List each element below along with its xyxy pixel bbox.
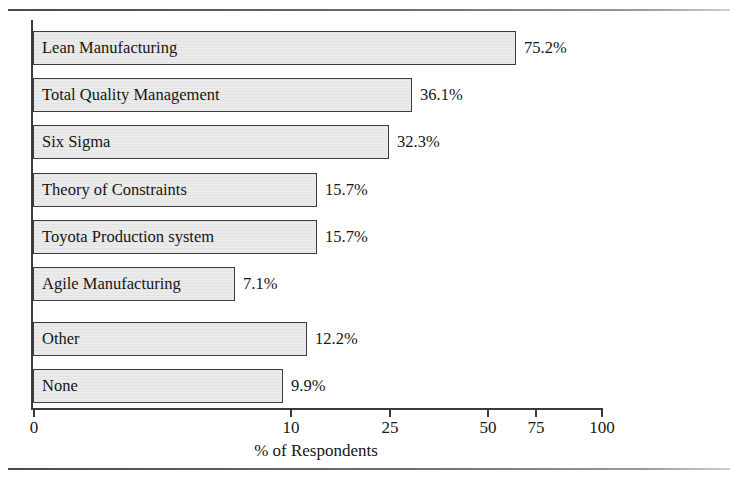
bar-category-label: Agile Manufacturing — [42, 276, 181, 293]
bar-value-label: 75.2% — [524, 40, 567, 57]
x-axis-tick-mark — [33, 408, 35, 417]
x-axis-tick-mark — [290, 408, 292, 417]
bar-value-label: 15.7% — [325, 229, 368, 246]
x-axis-tick-mark — [601, 408, 603, 417]
bar-value-label: 15.7% — [325, 182, 368, 199]
x-axis-tick-label: 50 — [480, 419, 497, 436]
x-axis-tick-mark — [389, 408, 391, 417]
x-axis-tick-label: 0 — [30, 419, 39, 436]
bar-category-label: Total Quality Management — [42, 87, 220, 104]
bar-value-label: 12.2% — [315, 331, 358, 348]
bar-value-label: 7.1% — [243, 276, 277, 293]
x-axis-tick-label: 100 — [589, 419, 615, 436]
bar-category-label: Theory of Constraints — [42, 182, 187, 199]
x-axis-tick-label: 25 — [382, 419, 399, 436]
bar-value-label: 9.9% — [291, 378, 325, 395]
plot-area: Lean Manufacturing75.2%Total Quality Man… — [0, 0, 742, 490]
chart-figure: Lean Manufacturing75.2%Total Quality Man… — [0, 0, 742, 490]
x-axis-tick-label: 75 — [528, 419, 545, 436]
x-axis-tick-mark — [535, 408, 537, 417]
bar-category-label: None — [42, 378, 78, 395]
x-axis-title: % of Respondents — [0, 441, 742, 461]
bar-category-label: Toyota Production system — [42, 229, 214, 246]
bar-value-label: 32.3% — [397, 134, 440, 151]
bar-category-label: Other — [42, 331, 80, 348]
value-axis-line — [31, 408, 602, 410]
x-axis-tick-label: 10 — [283, 419, 300, 436]
bar-value-label: 36.1% — [420, 87, 463, 104]
x-axis-title-text: % of Respondents — [254, 441, 378, 460]
bar-category-label: Six Sigma — [42, 134, 110, 151]
x-axis-tick-mark — [487, 408, 489, 417]
bar-category-label: Lean Manufacturing — [42, 40, 177, 57]
